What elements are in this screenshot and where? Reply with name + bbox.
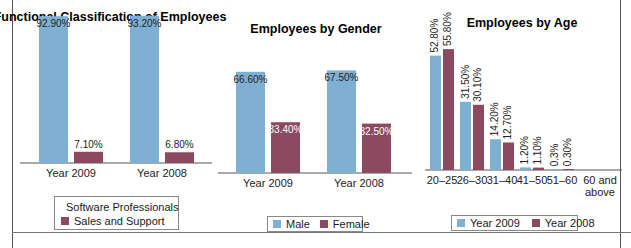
legend-swatch-maroon: [61, 217, 69, 225]
legend-swatch-blue: [457, 219, 465, 227]
chart3-bar: [563, 169, 574, 170]
chart3-bar: [473, 105, 484, 170]
chart3-data-label: 0.30%: [563, 138, 574, 166]
chart2-data-label: 66.60%: [234, 74, 268, 85]
legend-swatch-blue: [273, 220, 281, 228]
chart1-bar: [165, 152, 194, 163]
chart2-data-label: 67.50%: [325, 72, 359, 83]
legend-item-sales-and-support: Sales and Support: [61, 214, 172, 228]
chart2-data-label: 33.40%: [269, 124, 303, 135]
chart1-data-label: 6.80%: [165, 139, 193, 150]
chart3-bar: [533, 168, 544, 170]
chart3-data-label: 12.70%: [503, 105, 514, 139]
chart2-bar: [327, 70, 356, 173]
chart3-bar: [430, 56, 441, 170]
chart3-data-label: 0.3%: [550, 143, 561, 166]
chart1-legend: Software Professionals Sales and Support: [54, 196, 179, 230]
chart3-category-label: 20–25: [427, 174, 458, 186]
chart2-title: Employees by Gender: [250, 22, 381, 36]
chart3-data-label: 30.10%: [473, 68, 484, 102]
chart2-category-label: Year 2008: [334, 177, 384, 189]
chart3-category-label: 51–60: [547, 174, 578, 186]
chart3-category-label: 31–40: [487, 174, 518, 186]
chart1-category-label: Year 2009: [46, 167, 96, 179]
legend-label: Year 2009: [470, 217, 520, 229]
chart1-bar: [39, 16, 68, 163]
chart3-data-label: 55.80%: [443, 12, 454, 46]
chart2-category-label: Year 2009: [243, 177, 293, 189]
chart3-bar: [443, 49, 454, 170]
chart3-data-label: 14.20%: [490, 102, 501, 136]
chart3-bar: [520, 167, 531, 170]
chart1-data-label: 92.90%: [37, 18, 71, 29]
legend-label: Male: [286, 218, 310, 230]
legend-swatch-maroon: [320, 220, 328, 228]
chart3-category-label: 41–50: [517, 174, 548, 186]
chart3-category-label: above: [585, 186, 615, 198]
chart1-bar: [130, 16, 159, 163]
legend-label: Sales and Support: [74, 215, 165, 227]
chart2-bar: [236, 72, 265, 173]
chart3-bar: [503, 142, 514, 170]
legend-item-software-professionals: Software Professionals: [61, 200, 172, 214]
legend-item-male: Male: [273, 218, 310, 230]
chart3-data-label: 1.20%: [520, 136, 531, 164]
chart3-bar: [550, 169, 561, 170]
legend-label: Year 2008: [545, 217, 595, 229]
chart1-category-label: Year 2008: [137, 167, 187, 179]
chart3-category-label: 60 and: [583, 174, 617, 186]
chart3-category-label: 26–30: [457, 174, 488, 186]
chart3-data-label: 52.80%: [430, 19, 441, 53]
chart1-data-label: 7.10%: [74, 139, 102, 150]
chart1-bar: [74, 152, 103, 163]
chart3-bar: [490, 139, 501, 170]
chart2-data-label: 32.50%: [360, 126, 394, 137]
chart1-title: Functional Classification of Employees: [0, 10, 226, 24]
chart3-bar: [460, 102, 471, 170]
legend-item-year-2008: Year 2008: [532, 217, 595, 229]
legend-label: Software Professionals: [66, 201, 179, 213]
legend-item-year-2009: Year 2009: [457, 217, 520, 229]
legend-swatch-maroon: [532, 219, 540, 227]
chart3-data-label: 1.10%: [533, 136, 544, 164]
chart3-data-label: 31.50%: [460, 65, 471, 99]
chart2-legend: Male Female: [267, 216, 363, 232]
chart3-title: Employees by Age: [467, 16, 578, 30]
chart3-legend: Year 2009 Year 2008: [451, 215, 578, 231]
legend-label: Female: [333, 218, 370, 230]
chart1-data-label: 93.20%: [128, 18, 162, 29]
legend-item-female: Female: [320, 218, 370, 230]
